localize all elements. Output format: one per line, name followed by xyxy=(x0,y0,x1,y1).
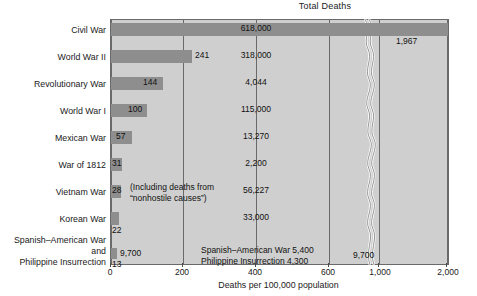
plot-area: 618,000 1,967 241 318,000 144 4,044 100 … xyxy=(110,19,449,265)
table-row: 28 56,227 (Including deaths from “nonhos… xyxy=(111,182,448,209)
annotation-vietnam-line2: “nonhostile causes”) xyxy=(130,193,207,204)
category-label-mexican-war: Mexican War xyxy=(0,133,106,144)
category-label-civil-war: Civil War xyxy=(0,25,106,36)
total-deaths-civil-war: 618,000 xyxy=(201,22,311,35)
total-deaths-mexican-war: 13,270 xyxy=(201,130,311,143)
category-label-war-of-1812: War of 1812 xyxy=(0,160,106,171)
table-row: 57 13,270 xyxy=(111,128,448,155)
category-label-revolutionary-war: Revolutionary War xyxy=(0,79,106,90)
table-row: 100 115,000 xyxy=(111,101,448,128)
category-label-world-war-i: World War I xyxy=(0,106,106,117)
total-deaths-world-war-i: 115,000 xyxy=(201,103,311,116)
x-tick-label-2000: 2,000 xyxy=(437,267,458,277)
bar-world-war-ii xyxy=(111,50,192,63)
table-row: 618,000 1,967 xyxy=(111,20,448,47)
x-tick-label-200: 200 xyxy=(175,267,189,277)
x-axis: 0 200 400 600 1,000 2,000 xyxy=(110,264,447,280)
total-deaths-spanish-american: 9,700 xyxy=(353,250,374,261)
category-label-korean-war: Korean War xyxy=(0,214,106,225)
x-tick-label-1000: 1,000 xyxy=(369,267,390,277)
table-row: 22 33,000 xyxy=(111,209,448,236)
rate-value-war-of-1812: 31 xyxy=(112,157,121,170)
category-label-vietnam-war: Vietnam War xyxy=(0,187,106,198)
category-label-spanish-american-line1: Spanish–American War xyxy=(0,235,106,246)
total-deaths-vietnam-war: 56,227 xyxy=(201,184,311,197)
x-tick-label-0: 0 xyxy=(108,267,113,277)
table-row: 31 2,200 xyxy=(111,155,448,182)
x-tick-label-400: 400 xyxy=(248,267,262,277)
total-deaths-war-of-1812: 2,200 xyxy=(201,157,311,170)
rate-value-mexican-war: 57 xyxy=(116,130,125,143)
chart-figure: Total Deaths Civil War World War II Revo… xyxy=(0,0,477,296)
rate-value-vietnam-war: 28 xyxy=(112,184,121,197)
rate-value-revolutionary-war: 144 xyxy=(143,76,157,89)
table-row: 9,700 13 Spanish–American War 5,400 Phil… xyxy=(111,236,448,264)
table-row: 144 4,044 xyxy=(111,74,448,101)
rate-value-spanish-american-total: 9,700 xyxy=(120,247,141,260)
total-deaths-world-war-ii: 318,000 xyxy=(201,49,311,62)
table-row: 241 318,000 xyxy=(111,47,448,74)
total-deaths-revolutionary-war: 4,044 xyxy=(201,76,311,89)
category-label-spanish-american-line3: Philippine Insurrection xyxy=(0,257,106,268)
annotation-spanish-line1: Spanish–American War 5,400 xyxy=(201,245,314,256)
total-deaths-column-header: Total Deaths xyxy=(245,1,405,11)
total-deaths-korean-war: 33,000 xyxy=(201,211,311,224)
category-axis-labels: Civil War World War II Revolutionary War… xyxy=(0,19,106,263)
category-label-spanish-american-line2: and xyxy=(0,246,106,257)
category-label-world-war-ii: World War II xyxy=(0,52,106,63)
annotation-vietnam-line1: (Including deaths from xyxy=(130,182,214,193)
x-tick-label-600: 600 xyxy=(321,267,335,277)
rate-value-world-war-i: 100 xyxy=(128,103,142,116)
x-axis-title: Deaths per 100,000 population xyxy=(110,280,447,290)
